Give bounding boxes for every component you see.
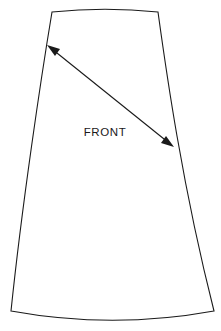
- pattern-piece-drawing: FRONT: [0, 0, 221, 331]
- piece-label-front: FRONT: [84, 126, 127, 138]
- skirt-front-panel-outline: [11, 9, 214, 320]
- pattern-diagram-canvas: FRONT: [0, 0, 221, 331]
